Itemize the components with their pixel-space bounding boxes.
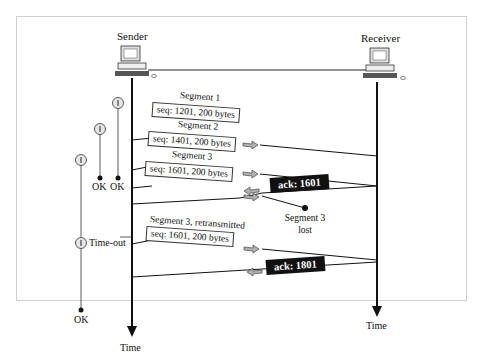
sender-time-label: Time [120, 342, 141, 354]
segment-3-lost-label: Segment 3 lost [283, 212, 327, 236]
receiver-label: Receiver [361, 32, 400, 44]
timer-2-ok-label: OK [110, 181, 124, 193]
diagram-lines [0, 0, 478, 354]
timer-1-ok-label: OK [92, 181, 106, 193]
timeout-label: Time-out [89, 237, 126, 249]
timer-3-ok-label: OK [74, 314, 88, 326]
sender-label: Sender [117, 30, 148, 42]
receiver-time-label: Time [366, 320, 387, 332]
sender-computer-icon [115, 46, 157, 78]
receiver-computer-icon [363, 48, 406, 80]
